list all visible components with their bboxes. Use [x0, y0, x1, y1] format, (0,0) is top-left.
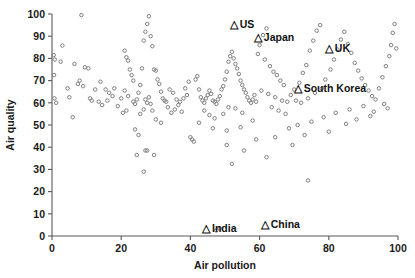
scatter-chart: 0102030405060708090100 020406080100 △US△… — [0, 0, 415, 278]
data-point — [324, 78, 328, 82]
data-point — [142, 108, 146, 112]
y-tick-label: 100 — [27, 8, 45, 20]
data-point — [227, 60, 231, 64]
data-point — [251, 98, 255, 102]
data-point — [265, 27, 269, 31]
data-point — [138, 83, 142, 87]
data-point — [235, 67, 239, 71]
data-point — [142, 39, 146, 43]
data-point — [80, 13, 84, 17]
data-point — [242, 149, 246, 153]
data-point — [73, 62, 77, 65]
data-point — [126, 59, 130, 63]
data-point — [299, 101, 303, 105]
data-point — [54, 101, 58, 105]
data-point — [344, 122, 348, 126]
data-point — [185, 93, 189, 97]
y-axis-ticks: 0102030405060708090100 — [27, 8, 52, 242]
data-point — [254, 100, 258, 104]
data-point — [353, 61, 357, 64]
x-tick-label: 0 — [49, 242, 55, 254]
data-point — [388, 54, 392, 58]
data-point — [53, 58, 57, 62]
data-point — [94, 88, 98, 92]
y-tick-label: 70 — [33, 74, 45, 86]
data-point — [386, 107, 390, 111]
data-point — [154, 118, 158, 122]
data-point — [126, 94, 130, 98]
data-point — [339, 38, 343, 42]
annotation-label: China — [271, 218, 300, 230]
data-point — [327, 130, 331, 134]
data-point — [241, 83, 245, 87]
data-point — [348, 108, 352, 112]
data-point — [258, 43, 262, 47]
data-point — [144, 30, 148, 34]
data-point — [128, 68, 132, 72]
data-point — [391, 31, 395, 35]
data-point — [329, 68, 333, 72]
data-point — [228, 54, 232, 58]
data-point — [71, 115, 75, 119]
data-point — [170, 111, 174, 115]
data-point — [175, 98, 179, 102]
data-point — [256, 52, 260, 56]
data-point — [260, 89, 264, 93]
annotation-triangle-icon: △ — [293, 82, 303, 94]
data-point — [61, 44, 65, 48]
data-point — [196, 74, 200, 78]
data-point — [367, 89, 371, 93]
data-point — [372, 110, 376, 114]
data-point — [76, 82, 80, 86]
data-point — [237, 72, 241, 76]
data-point — [282, 83, 286, 87]
y-tick-label: 10 — [33, 208, 45, 220]
data-point — [254, 138, 258, 142]
data-point — [315, 29, 319, 33]
data-point — [275, 73, 279, 77]
data-point — [267, 92, 271, 96]
data-point — [332, 58, 336, 62]
data-point — [159, 121, 163, 125]
y-tick-label: 0 — [39, 230, 45, 242]
data-point — [306, 97, 310, 101]
data-point — [356, 69, 360, 73]
data-point — [308, 49, 312, 53]
annotation-triangle-icon: △ — [324, 42, 334, 54]
data-point — [225, 143, 229, 147]
data-point — [301, 71, 305, 75]
data-point — [284, 112, 288, 116]
data-point — [123, 89, 127, 93]
data-point — [279, 79, 283, 83]
y-tick-label: 60 — [33, 97, 45, 109]
data-point — [140, 67, 144, 71]
data-point — [280, 99, 284, 103]
data-point — [173, 108, 177, 112]
data-point — [209, 92, 213, 96]
data-point — [350, 51, 354, 55]
data-point — [222, 84, 226, 88]
y-tick-label: 40 — [33, 141, 45, 153]
data-point — [294, 99, 298, 103]
data-point — [135, 153, 139, 157]
data-point — [244, 91, 248, 95]
data-point — [99, 80, 103, 84]
data-point — [151, 44, 155, 48]
data-point — [389, 43, 393, 47]
annotation-label: US — [240, 18, 255, 30]
data-point — [303, 133, 307, 137]
data-point — [81, 84, 85, 88]
data-point — [239, 125, 243, 129]
annotation-label: UK — [335, 42, 351, 54]
data-point — [234, 107, 238, 111]
data-point — [197, 121, 201, 125]
data-point — [230, 50, 234, 54]
data-point — [149, 34, 153, 38]
data-point — [322, 115, 326, 119]
data-point — [355, 118, 359, 122]
data-point — [130, 73, 134, 77]
data-point — [310, 120, 314, 124]
data-point — [360, 77, 364, 81]
data-point — [52, 73, 56, 77]
data-point — [202, 109, 206, 113]
